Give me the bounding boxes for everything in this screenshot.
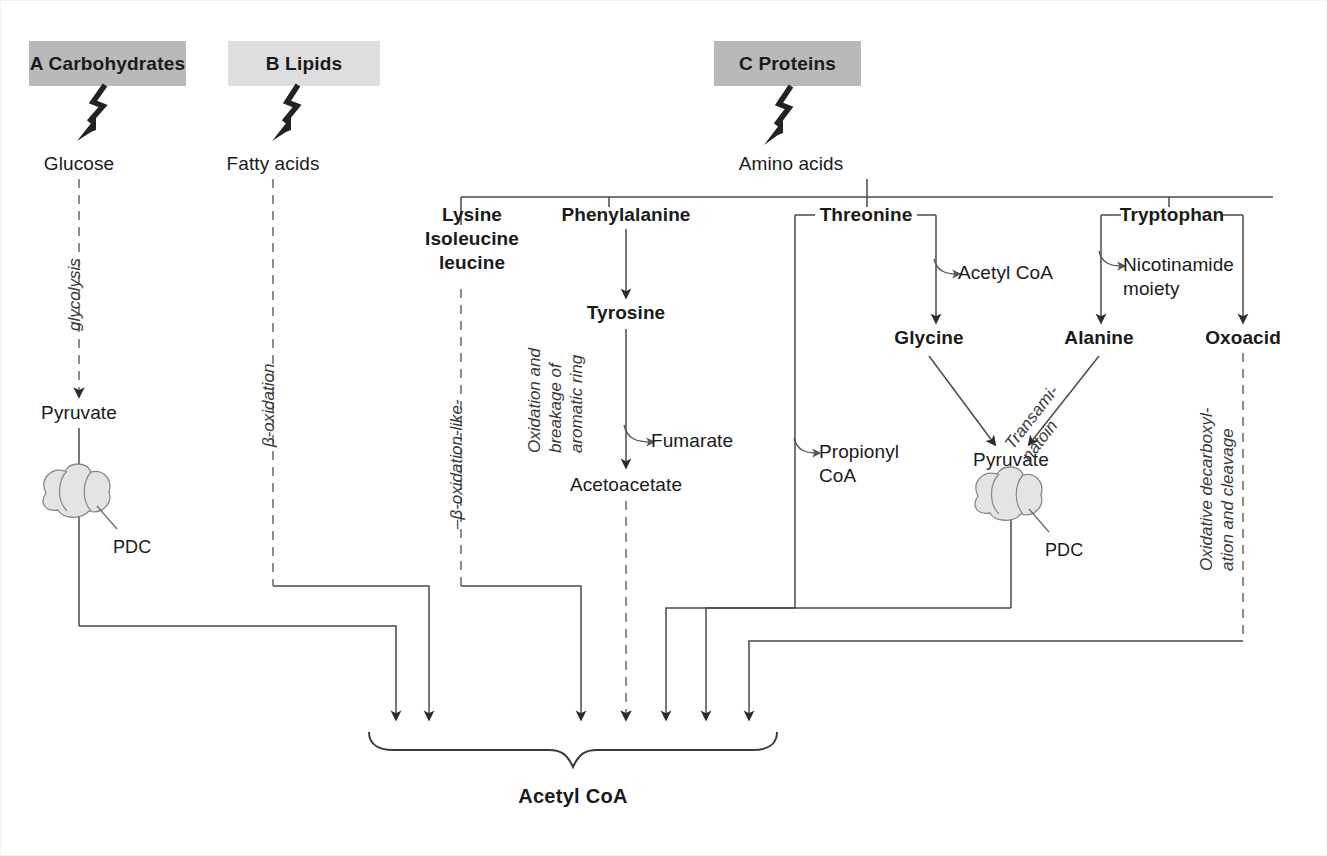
line-glycine-to-pyruvate bbox=[929, 356, 993, 442]
pdc-complex-left bbox=[43, 464, 117, 529]
bolt-proteins-head bbox=[764, 120, 783, 145]
arrow-acetyl-coa-branch bbox=[934, 259, 957, 274]
node-phenylalanine: Phenylalanine bbox=[561, 204, 690, 225]
bolt-proteins bbox=[776, 86, 791, 125]
node-fatty-acids: Fatty acids bbox=[227, 153, 320, 174]
bolt-carbohydrates bbox=[89, 85, 105, 122]
bolt-lipids bbox=[284, 85, 298, 122]
convergence-brace bbox=[369, 732, 777, 767]
pathway-label-beta-oxidation-like: –β-oxidation-like- bbox=[447, 399, 466, 529]
pathway-label-aromatic-line1: Oxidation and bbox=[525, 348, 544, 453]
node-glycine: Glycine bbox=[894, 327, 963, 348]
pathway-label-beta-oxidation: β-oxidation bbox=[259, 364, 278, 447]
node-tyrosine: Tyrosine bbox=[587, 302, 666, 323]
node-lysine: Lysine bbox=[442, 204, 502, 225]
node-acetyl-coa-final: Acetyl CoA bbox=[518, 785, 628, 807]
node-amino-acids: Amino acids bbox=[739, 153, 844, 174]
node-fumarate: Fumarate bbox=[651, 430, 733, 451]
node-pyruvate-left: Pyruvate bbox=[41, 402, 117, 423]
node-tryptophan: Tryptophan bbox=[1120, 204, 1224, 225]
node-acetyl-coa-branch: Acetyl CoA bbox=[958, 262, 1053, 283]
bolt-carbohydrates-head bbox=[77, 117, 96, 141]
node-propionyl-coa-line1: Propionyl bbox=[819, 441, 899, 462]
node-nicotinamide-line1: Nicotinamide bbox=[1123, 254, 1234, 275]
pathway-label-oxidative-line1: Oxidative decarboxyl- bbox=[1197, 408, 1216, 571]
enzyme-label-pdc-right: PDC bbox=[1045, 540, 1083, 560]
rail-pyruvate-right bbox=[706, 608, 1011, 716]
node-propionyl-coa-line2: CoA bbox=[819, 465, 856, 486]
pdc-complex-right bbox=[975, 467, 1049, 532]
pathway-label-aromatic-line2: breakage of bbox=[546, 363, 565, 453]
node-isoleucine: Isoleucine bbox=[425, 228, 519, 249]
pathway-label-glycolysis: glycolysis bbox=[65, 258, 84, 331]
enzyme-label-pdc-left: PDC bbox=[113, 537, 151, 557]
connector-layer bbox=[1, 1, 1327, 856]
arrow-propionyl-coa bbox=[794, 438, 817, 453]
node-alanine: Alanine bbox=[1064, 327, 1133, 348]
node-oxoacid: Oxoacid bbox=[1205, 327, 1281, 348]
rail-carbohydrates bbox=[79, 626, 396, 716]
node-leucine: leucine bbox=[439, 252, 505, 273]
arrow-nicotinamide bbox=[1099, 251, 1122, 266]
node-nicotinamide-line2: moiety bbox=[1123, 278, 1180, 299]
rail-lipids bbox=[273, 586, 429, 716]
node-acetoacetate: Acetoacetate bbox=[570, 474, 682, 495]
rail-lysine bbox=[461, 586, 581, 716]
arrow-fumarate bbox=[624, 425, 651, 442]
metabolic-pathway-figure: A Carbohydrates B Lipids C Proteins bbox=[0, 0, 1327, 856]
node-glucose: Glucose bbox=[44, 153, 114, 174]
pathway-label-oxidative-line2: ation and cleavage bbox=[1218, 428, 1237, 571]
rail-oxoacid bbox=[749, 641, 1243, 716]
pathway-label-aromatic-line3: aromatic ring bbox=[567, 355, 586, 453]
node-threonine: Threonine bbox=[820, 204, 913, 225]
